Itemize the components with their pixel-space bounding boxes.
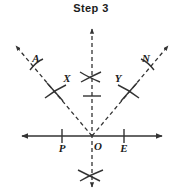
- point-label-n: N: [141, 52, 151, 64]
- arc-cross-below-origin: [78, 170, 103, 181]
- arc-cross-x: [45, 83, 66, 101]
- arc-cross-y: [118, 83, 139, 101]
- point-label-a: A: [31, 52, 39, 64]
- construction-diagram-canvas: Step 3: [0, 0, 182, 195]
- geometry-figure: A N X Y P O E: [0, 0, 182, 195]
- point-label-p: P: [59, 142, 66, 154]
- point-label-e: E: [119, 142, 127, 154]
- point-label-y: Y: [115, 72, 123, 84]
- arc-cross-upper-center: [80, 72, 101, 82]
- point-label-o: O: [94, 140, 102, 152]
- point-label-x: X: [62, 72, 71, 84]
